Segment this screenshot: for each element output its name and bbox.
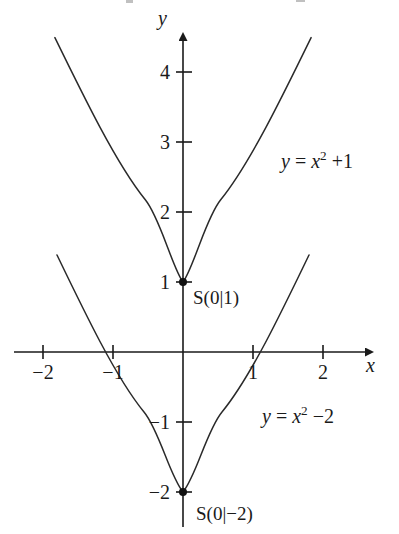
y-tick-label-4: 4 <box>140 62 170 82</box>
parabola-figure: y x 4 3 2 1 −1 −2 −2 −1 1 2 y = x2 +1 y … <box>0 0 399 534</box>
y-tick-label--2: −2 <box>132 482 170 502</box>
y-tick-label-2: 2 <box>140 202 170 222</box>
y-tick-label-3: 3 <box>140 132 170 152</box>
x-axis-name: x <box>366 355 375 375</box>
equation-label-lower: y = x2 −2 <box>262 406 334 426</box>
y-axis-name: y <box>158 8 167 28</box>
y-tick-label--1: −1 <box>132 412 170 432</box>
x-tick-label--1: −1 <box>91 362 135 382</box>
y-tick-label-1: 1 <box>140 272 170 292</box>
x-tick-label--2: −2 <box>21 362 65 382</box>
x-tick-label-2: 2 <box>305 362 341 382</box>
vertex-label-lower: S(0|−2) <box>196 504 253 523</box>
equation-label-upper: y = x2 +1 <box>281 151 353 171</box>
vertex-label-upper: S(0|1) <box>193 288 239 307</box>
x-tick-label-1: 1 <box>235 362 271 382</box>
vertex-point-lower <box>179 488 187 496</box>
plot-canvas <box>0 0 399 534</box>
vertex-point-upper <box>179 278 187 286</box>
